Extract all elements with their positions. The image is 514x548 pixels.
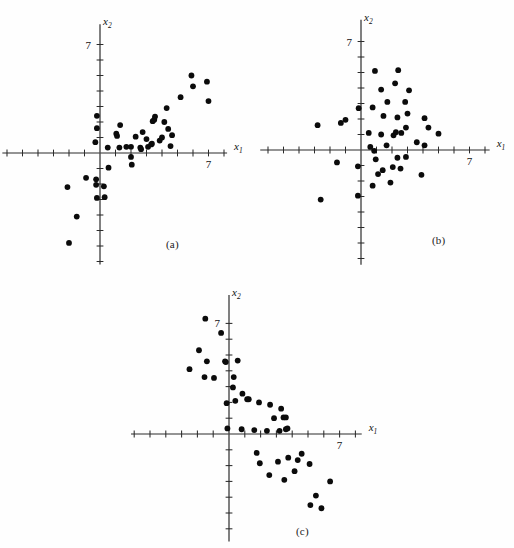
data-point	[406, 87, 412, 93]
data-point	[355, 163, 361, 169]
data-point	[218, 330, 224, 336]
data-point	[295, 457, 301, 463]
data-point	[371, 148, 377, 154]
data-point	[204, 79, 210, 85]
x-tick-label: 7	[337, 439, 343, 451]
data-point	[235, 358, 241, 364]
data-point	[392, 80, 398, 86]
data-point	[366, 130, 372, 136]
data-point	[285, 455, 291, 461]
y-tick-label: 7	[347, 36, 353, 48]
data-point	[275, 459, 281, 465]
data-point	[375, 171, 381, 177]
data-point	[398, 130, 404, 136]
panel-a-caption: (a)	[166, 238, 179, 250]
data-point	[395, 115, 401, 121]
data-point	[138, 146, 144, 152]
data-point	[164, 105, 170, 111]
data-point	[378, 132, 384, 138]
data-point	[92, 139, 98, 145]
data-point	[313, 493, 319, 499]
data-point	[327, 479, 333, 485]
data-point	[211, 375, 217, 381]
data-point	[278, 406, 284, 412]
scatter-figure: 77x1x2 (a) 77x1x2 (b) 77x1x2 (c)	[0, 0, 514, 548]
data-point	[422, 142, 428, 148]
panel-a-plot: 77x1x2	[0, 0, 250, 265]
data-point	[144, 136, 150, 142]
data-point	[251, 427, 257, 433]
data-point	[372, 68, 378, 74]
data-point	[256, 400, 262, 406]
data-point	[338, 120, 344, 126]
data-point	[271, 415, 277, 421]
data-point	[190, 83, 196, 89]
data-point	[202, 374, 208, 380]
data-point	[384, 99, 390, 105]
data-point	[307, 502, 313, 508]
data-point	[283, 415, 289, 421]
data-point	[403, 125, 409, 131]
y-axis-label: x2	[363, 11, 373, 26]
data-point	[414, 139, 420, 145]
data-point	[257, 460, 263, 466]
panel-c-caption: (c)	[296, 525, 309, 537]
data-point	[232, 398, 238, 404]
data-point	[93, 176, 99, 182]
data-point	[395, 67, 401, 73]
data-point	[398, 166, 404, 172]
data-point	[165, 126, 171, 132]
data-point	[128, 154, 134, 160]
data-point	[204, 358, 210, 364]
data-point	[285, 426, 291, 432]
data-point	[356, 105, 362, 111]
data-point	[318, 197, 324, 203]
data-point	[378, 87, 384, 93]
x-axis-label: x1	[496, 137, 506, 152]
data-point	[370, 183, 376, 189]
panel-b: 77x1x2	[258, 0, 514, 265]
y-tick-label: 7	[86, 39, 92, 51]
data-point	[140, 129, 146, 135]
data-point	[436, 131, 442, 137]
data-point	[231, 374, 237, 380]
data-point	[381, 113, 387, 119]
data-point	[152, 114, 158, 120]
data-point	[319, 505, 325, 511]
data-point	[149, 141, 155, 147]
data-point	[94, 113, 100, 119]
data-point	[102, 194, 108, 200]
data-point	[292, 468, 298, 474]
data-point	[93, 182, 99, 188]
data-point	[277, 428, 283, 434]
x-axis-label: x1	[233, 140, 243, 155]
data-point	[426, 125, 432, 131]
data-point	[206, 98, 212, 104]
data-point	[83, 175, 89, 181]
data-point	[384, 142, 390, 148]
data-point	[419, 172, 425, 178]
data-point	[281, 477, 287, 483]
data-point	[315, 122, 321, 128]
data-point	[223, 359, 229, 365]
data-point	[307, 461, 313, 467]
data-point	[116, 145, 122, 151]
data-point	[225, 426, 231, 432]
data-point	[230, 384, 236, 390]
y-tick-label: 7	[215, 317, 221, 329]
data-point	[169, 132, 175, 138]
data-point	[94, 125, 100, 131]
data-point	[402, 99, 408, 105]
data-point	[178, 94, 184, 100]
data-point	[161, 119, 167, 125]
data-point	[224, 400, 230, 406]
data-point	[106, 165, 112, 171]
data-point	[266, 472, 272, 478]
x-tick-label: 7	[206, 158, 212, 170]
panel-b-caption: (b)	[432, 234, 445, 246]
x-axis-label: x1	[368, 421, 378, 436]
data-point	[370, 104, 376, 110]
data-point	[128, 144, 134, 150]
data-point	[403, 154, 409, 160]
data-point	[240, 391, 246, 397]
